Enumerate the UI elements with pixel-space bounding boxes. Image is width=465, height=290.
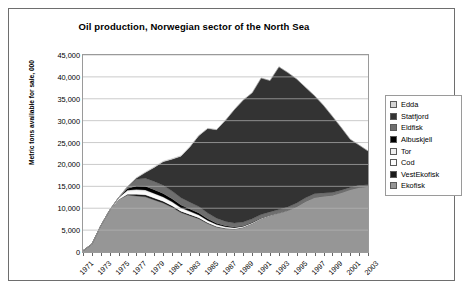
chart-legend: EddaStatfjordEldfiskAlbuskjellTorCodVest… bbox=[385, 95, 462, 196]
legend-item-statfjord[interactable]: Statfjord bbox=[390, 111, 458, 123]
x-tick-mark bbox=[101, 253, 102, 256]
legend-swatch-icon bbox=[390, 136, 397, 143]
y-tick-label: 40,000 bbox=[20, 72, 80, 81]
x-tick-mark bbox=[136, 253, 137, 256]
x-tick-mark bbox=[208, 253, 209, 256]
y-tick-label: 0 bbox=[20, 248, 80, 257]
legend-swatch-icon bbox=[390, 113, 397, 120]
y-axis-ticks: 05,00010,00015,00020,00025,00030,00035,0… bbox=[14, 54, 80, 253]
y-tick-label: 35,000 bbox=[20, 94, 80, 103]
x-tick-mark bbox=[359, 253, 360, 256]
legend-swatch-icon bbox=[390, 182, 397, 189]
legend-label: Cod bbox=[401, 158, 415, 167]
x-tick-mark bbox=[350, 253, 351, 256]
x-tick-mark bbox=[297, 253, 298, 256]
x-tick-mark bbox=[279, 253, 280, 256]
legend-swatch-icon bbox=[390, 171, 397, 178]
chart-frame: Oil production, Norwegian sector of the … bbox=[8, 8, 455, 281]
x-tick-mark bbox=[119, 253, 120, 256]
x-tick-mark bbox=[288, 253, 289, 256]
stacked-area-svg bbox=[83, 55, 368, 252]
x-tick-mark bbox=[270, 253, 271, 256]
x-tick-mark bbox=[252, 253, 253, 256]
plot-area bbox=[82, 54, 369, 253]
legend-item-ekofisk[interactable]: Ekofisk bbox=[390, 180, 458, 192]
x-tick-mark bbox=[341, 253, 342, 256]
legend-item-edda[interactable]: Edda bbox=[390, 99, 458, 111]
y-tick-label: 25,000 bbox=[20, 138, 80, 147]
legend-label: Eldfisk bbox=[401, 123, 423, 132]
legend-label: Ekofisk bbox=[401, 181, 425, 190]
x-tick-mark bbox=[324, 253, 325, 256]
legend-swatch-icon bbox=[390, 148, 397, 155]
legend-item-tor[interactable]: Tor bbox=[390, 145, 458, 157]
plot-canvas bbox=[82, 54, 369, 253]
legend-label: Statfjord bbox=[401, 112, 429, 121]
x-tick-mark bbox=[332, 253, 333, 256]
x-tick-mark bbox=[145, 253, 146, 256]
legend-item-cod[interactable]: Cod bbox=[390, 157, 458, 169]
legend-label: Tor bbox=[401, 147, 411, 156]
legend-item-vestekofisk[interactable]: VestEkofisk bbox=[390, 169, 458, 181]
y-tick-label: 45,000 bbox=[20, 51, 80, 60]
legend-label: VestEkofisk bbox=[401, 170, 439, 179]
legend-item-albuskjell[interactable]: Albuskjell bbox=[390, 134, 458, 146]
chart-title: Oil production, Norwegian sector of the … bbox=[9, 21, 379, 32]
legend-swatch-icon bbox=[390, 101, 397, 108]
x-tick-mark bbox=[190, 253, 191, 256]
x-tick-mark bbox=[261, 253, 262, 256]
x-tick-mark bbox=[315, 253, 316, 256]
x-tick-mark bbox=[92, 253, 93, 256]
y-tick-label: 20,000 bbox=[20, 160, 80, 169]
y-tick-label: 15,000 bbox=[20, 182, 80, 191]
x-tick-mark bbox=[199, 253, 200, 256]
x-tick-mark bbox=[110, 253, 111, 256]
x-tick-mark bbox=[243, 253, 244, 256]
x-tick-mark bbox=[181, 253, 182, 256]
x-tick-mark bbox=[154, 253, 155, 256]
legend-swatch-icon bbox=[390, 124, 397, 131]
x-axis-ticks: 1971197319751977197919811983198519871989… bbox=[82, 255, 374, 290]
x-tick-mark bbox=[226, 253, 227, 256]
x-tick-mark bbox=[306, 253, 307, 256]
legend-label: Albuskjell bbox=[401, 135, 432, 144]
y-tick-label: 10,000 bbox=[20, 204, 80, 213]
x-tick-mark bbox=[163, 253, 164, 256]
legend-swatch-icon bbox=[390, 159, 397, 166]
x-tick-mark bbox=[234, 253, 235, 256]
y-tick-label: 5,000 bbox=[20, 226, 80, 235]
x-tick-mark bbox=[217, 253, 218, 256]
y-tick-label: 30,000 bbox=[20, 116, 80, 125]
x-tick-mark bbox=[128, 253, 129, 256]
x-tick-mark bbox=[83, 253, 84, 256]
legend-label: Edda bbox=[401, 100, 418, 109]
x-tick-mark bbox=[172, 253, 173, 256]
x-tick-mark bbox=[368, 253, 369, 256]
legend-item-eldfisk[interactable]: Eldfisk bbox=[390, 122, 458, 134]
